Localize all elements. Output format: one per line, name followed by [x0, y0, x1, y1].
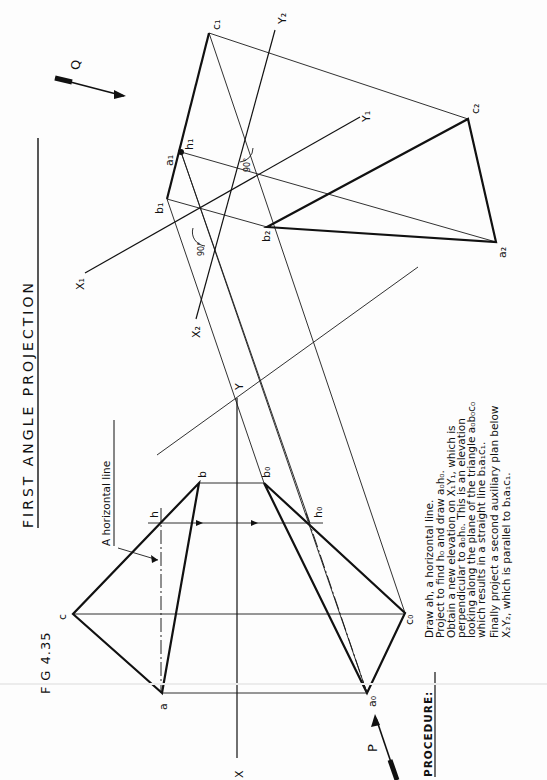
label-b0: b₀ — [260, 466, 273, 478]
procedure-line: Finally project a second auxiliary plan … — [488, 405, 500, 638]
view-arrow-p: P — [365, 714, 397, 780]
label-h: h — [148, 511, 161, 518]
projection-drawing: FIRST ANGLE PROJECTION FIG 4.35 A horizo… — [0, 0, 547, 780]
xy-reference-line: Y X — [233, 383, 246, 778]
projectors-primary — [73, 483, 405, 693]
x1y1-line: X₁ Y₁ — [74, 111, 373, 290]
horizontal-line-annotation: A horizontal line — [100, 420, 158, 563]
axis-label-x2: X₂ — [190, 326, 203, 338]
arrow-label-p: P — [365, 744, 380, 752]
page-title: FIRST ANGLE PROJECTION — [20, 280, 36, 528]
axis-label-x: X — [233, 770, 246, 778]
axis-label-y2: Y₂ — [276, 13, 289, 25]
axis-label-x1: X₁ — [74, 278, 87, 290]
title-block: FIRST ANGLE PROJECTION — [20, 138, 38, 528]
axis-label-y: Y — [233, 383, 246, 391]
label-c0: c₀ — [403, 614, 416, 625]
label-h0: h₀ — [312, 506, 325, 518]
label-c1: c₁ — [210, 20, 223, 30]
arrowhead-icon — [371, 714, 380, 727]
procedure-heading: PROCEDURE: — [422, 691, 434, 777]
x2y2-line: X₂ Y₂ — [190, 13, 289, 338]
arrowhead-icon — [114, 90, 126, 99]
angle-label-1: 90° — [243, 158, 252, 172]
label-a0: a₀ — [366, 695, 379, 707]
projectors-auxiliary-2 — [167, 33, 496, 242]
label-h1: h₁ — [183, 139, 196, 150]
triangle-a2b2c2 — [267, 119, 496, 242]
label-c: c — [56, 614, 69, 620]
label-b1: b₁ — [153, 203, 166, 214]
axis-label-y1: Y₁ — [360, 111, 373, 123]
triangle-a0b0c0 — [264, 483, 405, 693]
annotation-label: A horizontal line — [100, 461, 112, 546]
procedure-line: X₂Y₂, which is parallel to b₁a₁c₁. — [500, 473, 512, 638]
label-a1: a₁ — [163, 155, 176, 166]
label-a: a — [157, 703, 170, 710]
projectors-auxiliary-1 — [167, 33, 405, 693]
scan-fold-line — [0, 683, 547, 685]
leader-arrowhead-icon — [151, 555, 158, 563]
procedure-line: which results in a straight line b₁a₁c₁. — [475, 442, 487, 638]
arrow-label-q: Q — [68, 60, 83, 70]
label-c2: c₂ — [469, 104, 482, 114]
line-b1a1c1 — [167, 33, 209, 199]
label-b: b — [196, 471, 209, 478]
triangle-abc — [73, 483, 199, 693]
drawing-page: FIRST ANGLE PROJECTION FIG 4.35 A horizo… — [0, 0, 547, 780]
view-arrow-q: Q — [55, 60, 126, 99]
reference-line-elevation — [157, 267, 418, 455]
angle-label-2: 90° — [197, 242, 206, 256]
label-a2: a₂ — [496, 247, 509, 258]
label-b2: b₂ — [260, 231, 273, 242]
procedure-block: PROCEDURE: Draw ah, a horizontal line. P… — [422, 402, 512, 777]
